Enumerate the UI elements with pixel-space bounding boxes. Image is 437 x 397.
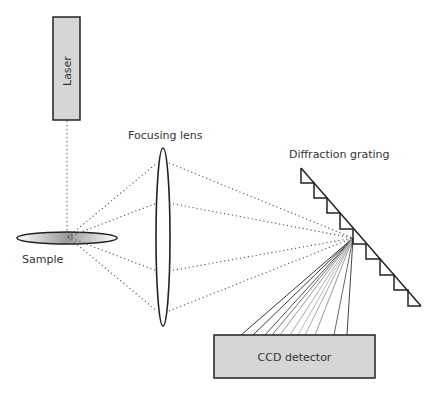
ccd-label: CCD detector — [258, 351, 332, 364]
grating-label: Diffraction grating — [289, 148, 390, 161]
diffracted-beams — [241, 238, 353, 335]
lens-label: Focusing lens — [128, 129, 203, 142]
grating-face — [301, 168, 421, 306]
sample-disc — [17, 232, 117, 244]
raman-diagram: Laser Sample Focusing lens — [0, 0, 437, 397]
focused-beams — [169, 163, 353, 311]
ccd-detector: CCD detector — [214, 335, 375, 378]
sample-label: Sample — [22, 253, 63, 266]
lens-shape — [156, 148, 170, 326]
diffraction-grating: Diffraction grating — [289, 148, 421, 306]
laser-label: Laser — [61, 56, 74, 86]
laser: Laser — [53, 17, 80, 120]
sample: Sample — [17, 232, 117, 266]
